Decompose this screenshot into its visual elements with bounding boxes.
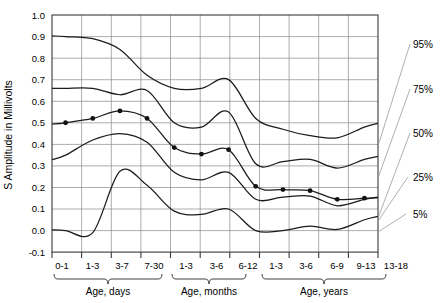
percentile-label-50: 50% <box>413 128 433 139</box>
y-axis-title: S Amplitude in Millivolts <box>2 80 14 190</box>
x-tick-label: 1-3 <box>269 260 283 271</box>
x-tick-label: 3-7 <box>115 260 129 271</box>
y-tick-label: 0.6 <box>32 96 45 107</box>
median-marker <box>362 196 367 201</box>
percentile-curves <box>52 36 378 237</box>
curve-50pct <box>52 111 378 200</box>
percentile-label-5: 5% <box>413 209 428 220</box>
median-marker <box>199 152 204 157</box>
percentile-label-25: 25% <box>413 172 433 183</box>
x-tick-label: 1-3 <box>86 260 100 271</box>
curve-75pct <box>52 88 378 168</box>
x-group-labels: Age, days Age, months Age, years <box>86 286 348 297</box>
y-tick-labels: 1.0 0.9 0.8 0.7 0.6 0.5 0.4 0.3 0.2 0.1 … <box>29 10 45 258</box>
curve-5pct <box>52 169 378 237</box>
percentile-labels: 95% 75% 50% 25% 5% <box>413 39 433 220</box>
group-label-days: Age, days <box>86 286 130 297</box>
group-label-years: Age, years <box>300 286 348 297</box>
y-tick-label: 1.0 <box>32 10 45 21</box>
median-marker <box>335 197 340 202</box>
median-marker <box>145 116 150 121</box>
percentile-label-95: 95% <box>413 39 433 50</box>
y-tick-label: 0.1 <box>32 203 45 214</box>
y-tick-label: -0.1 <box>29 247 45 258</box>
median-marker <box>172 145 177 150</box>
y-tick-label: 0.8 <box>32 53 45 64</box>
percentile-growth-chart: S Amplitude in Millivolts 1.0 0.9 0.8 0.… <box>0 0 445 303</box>
median-marker <box>63 120 68 125</box>
y-tick-label: 0.3 <box>32 160 45 171</box>
x-tick-label: 3-6 <box>210 260 224 271</box>
median-marker <box>308 188 313 193</box>
x-tick-label: 13-18 <box>384 260 408 271</box>
chart-container: S Amplitude in Millivolts 1.0 0.9 0.8 0.… <box>0 0 445 303</box>
median-marker <box>281 187 286 192</box>
x-tick-labels: 0-1 1-3 3-7 7-30 1-3 3-6 6-12 1-3 3-6 6-… <box>55 260 408 271</box>
y-tick-label: 0.9 <box>32 31 45 42</box>
median-marker <box>90 116 95 121</box>
group-label-months: Age, months <box>181 286 237 297</box>
y-tick-label: 0.5 <box>32 117 45 128</box>
x-group-brackets <box>54 274 386 284</box>
horizontal-gridlines <box>52 37 378 231</box>
x-tick-marks <box>52 252 378 258</box>
x-tick-label: 1-3 <box>179 260 193 271</box>
x-tick-label: 6-9 <box>330 260 344 271</box>
x-tick-label: 9-13 <box>356 260 375 271</box>
median-marker <box>253 184 258 189</box>
y-tick-label: 0.2 <box>32 182 45 193</box>
percentile-label-75: 75% <box>413 84 433 95</box>
x-tick-label: 0-1 <box>55 260 69 271</box>
x-tick-label: 7-30 <box>144 260 163 271</box>
median-marker <box>226 147 231 152</box>
x-tick-label: 6-12 <box>238 260 257 271</box>
median-marker <box>118 109 123 114</box>
y-tick-label: 0.4 <box>32 139 45 150</box>
y-tick-label: 0.7 <box>32 74 45 85</box>
y-tick-label: 0.0 <box>32 225 45 236</box>
x-tick-label: 3-6 <box>299 260 313 271</box>
percentile-leader-lines <box>378 44 410 232</box>
